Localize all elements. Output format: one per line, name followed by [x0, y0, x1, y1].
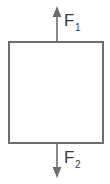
force-label-f2: F — [64, 148, 74, 167]
force-arrow-up: F 1 — [53, 6, 81, 41]
force-subscript-2: 2 — [75, 159, 81, 170]
force-arrow-up-head — [53, 6, 62, 17]
force-label-f1: F — [64, 11, 74, 30]
force-arrow-down-head — [53, 167, 62, 178]
force-diagram-canvas: F 1 F 2 — [0, 0, 110, 184]
body-rectangle — [9, 42, 103, 143]
force-diagram-figure: F 1 F 2 — [0, 0, 110, 184]
force-subscript-1: 1 — [75, 22, 81, 33]
force-arrow-down: F 2 — [53, 144, 81, 178]
